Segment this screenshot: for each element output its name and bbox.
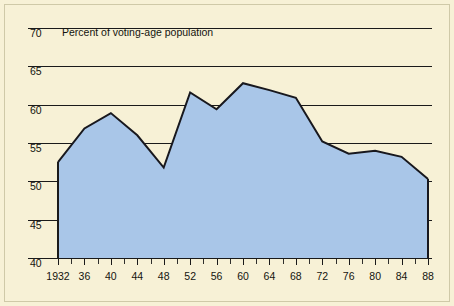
y-axis-label-65: 65	[30, 65, 42, 77]
area-series-fill	[58, 83, 428, 258]
y-axis-label-55: 55	[30, 142, 42, 154]
x-axis-label-1984: 84	[396, 270, 408, 282]
x-axis-label-1936: 36	[79, 270, 91, 282]
y-axis-labels-group: 40455055606570	[30, 27, 42, 269]
x-axis-label-1932: 1932	[46, 270, 70, 282]
chart-area: 40455055606570 1932364044485256606468727…	[0, 0, 454, 306]
x-axis-label-1976: 76	[343, 270, 355, 282]
y-axis-label-50: 50	[30, 180, 42, 192]
y-axis-label-40: 40	[30, 257, 42, 269]
x-axis-label-1940: 40	[105, 270, 117, 282]
x-axis-label-1968: 68	[290, 270, 302, 282]
x-axis-labels-group: 19323640444852566064687276808488	[46, 270, 434, 282]
x-axis-label-1988: 88	[422, 270, 434, 282]
x-axis-label-1980: 80	[369, 270, 381, 282]
plot-group	[58, 83, 428, 258]
y-axis-label-60: 60	[30, 104, 42, 116]
x-axis-label-1956: 56	[211, 270, 223, 282]
chart-title: Percent of voting-age population	[62, 26, 213, 38]
x-axis-label-1948: 48	[158, 270, 170, 282]
x-axis-label-1944: 44	[131, 270, 143, 282]
x-axis-label-1964: 64	[264, 270, 276, 282]
x-axis-label-1972: 72	[316, 270, 328, 282]
x-axis-label-1960: 60	[237, 270, 249, 282]
x-axis-label-1952: 52	[184, 270, 196, 282]
y-axis-label-45: 45	[30, 219, 42, 231]
area-chart: 40455055606570 1932364044485256606468727…	[0, 0, 454, 306]
chart-page: 40455055606570 1932364044485256606468727…	[0, 0, 454, 306]
y-axis-label-70: 70	[30, 27, 42, 39]
